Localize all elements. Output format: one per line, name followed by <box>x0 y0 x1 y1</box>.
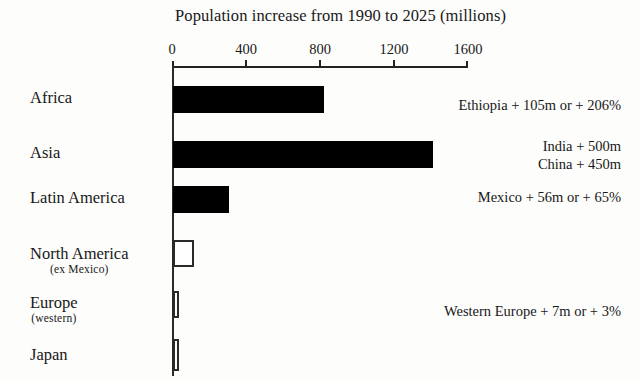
x-tick-mark-1200 <box>393 60 395 68</box>
category-label-japan: Japan <box>30 346 68 363</box>
category-label-north-america: North America (ex Mexico) <box>30 245 129 275</box>
x-tick-label-800: 800 <box>309 41 331 58</box>
annotation-western-europe: Western Europe + 7m or + 3% <box>444 302 621 320</box>
annotation-china: China + 450m <box>538 155 621 173</box>
x-tick-label-1600: 1600 <box>454 41 483 58</box>
category-label-europe: Europe (western) <box>30 294 78 324</box>
x-tick-label-0: 0 <box>168 41 175 58</box>
category-label-latin-america: Latin America <box>30 189 125 206</box>
chart-page: Population increase from 1990 to 2025 (m… <box>0 0 640 382</box>
bar-europe <box>173 291 179 318</box>
bar-north-america <box>173 240 194 267</box>
x-tick-mark-1600 <box>466 61 468 68</box>
category-label-africa-text: Africa <box>30 88 72 107</box>
bar-africa <box>173 86 324 113</box>
annotation-mexico: Mexico + 56m or + 65% <box>478 188 621 206</box>
annotation-india: India + 500m <box>543 137 621 155</box>
category-sublabel-north-america: (ex Mexico) <box>30 263 129 275</box>
category-label-japan-text: Japan <box>30 345 68 364</box>
x-tick-label-400: 400 <box>235 41 257 58</box>
category-label-asia: Asia <box>30 144 60 161</box>
category-label-africa: Africa <box>30 89 72 106</box>
category-sublabel-europe: (western) <box>30 312 78 324</box>
category-label-latin-america-text: Latin America <box>30 188 125 207</box>
annotation-ethiopia: Ethiopia + 105m or + 206% <box>458 96 621 114</box>
bar-japan <box>173 339 179 371</box>
category-label-asia-text: Asia <box>30 143 60 162</box>
x-tick-mark-800 <box>319 60 321 68</box>
category-label-europe-text: Europe <box>30 293 78 312</box>
x-tick-mark-400 <box>245 60 247 68</box>
bar-latin-america <box>173 186 229 213</box>
bar-asia <box>173 141 433 168</box>
x-tick-label-1200: 1200 <box>380 41 409 58</box>
category-label-north-america-text: North America <box>30 244 129 263</box>
